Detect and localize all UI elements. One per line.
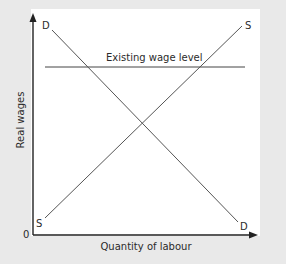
demand-start-label: D: [42, 21, 50, 31]
y-axis-arrow-icon: [30, 13, 37, 22]
x-axis-label: Quantity of labour: [100, 241, 191, 252]
existing-wage-label: Existing wage level: [106, 53, 203, 63]
origin-label: 0: [23, 230, 29, 240]
supply-end-label: S: [245, 21, 251, 31]
y-axis-label: Real wages: [15, 92, 26, 149]
supply-start-label: S: [36, 219, 42, 229]
demand-end-label: D: [240, 222, 248, 232]
x-axis-arrow-icon: [249, 232, 258, 239]
